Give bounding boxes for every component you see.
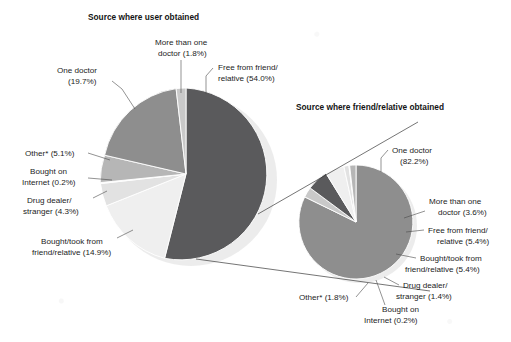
label-left-other: Other* (5.1%) (25, 149, 110, 160)
leader-left-one-doctor (112, 81, 135, 109)
label-right-free-from: Free from friend/ relative (5.4%) (406, 226, 489, 246)
left-chart-title: Source where user obtained (88, 12, 199, 22)
label-right-other: Other* (1.8%) (299, 283, 368, 302)
label-left-internet-line1: Bought on (30, 167, 67, 176)
label-right-other-line1: Other* (1.8%) (299, 293, 349, 302)
label-right-one-doctor-line2: (82.2%) (400, 157, 429, 166)
two-pie-chart-figure: Source where user obtained Source where … (0, 0, 511, 342)
leader-right-dealer (384, 277, 399, 285)
label-right-morethanone-line2: doctor (3.6%) (438, 208, 487, 217)
label-left-dealer-line2: stranger (4.3%) (23, 207, 79, 216)
label-right-internet-line2: Internet (0.2%) (364, 316, 418, 325)
label-left-more-than-one-doctor-line1: More than one (155, 38, 208, 47)
label-left-free-from-line2: relative (54.0%) (218, 74, 275, 83)
label-right-internet-line1: Bought on (382, 305, 419, 314)
label-right-freefrom-line2: relative (5.4%) (437, 237, 489, 246)
label-right-one-doctor-line1: One doctor (392, 146, 432, 155)
right-chart-title: Source where friend/relative obtained (296, 102, 444, 112)
pie-friend-slices (299, 165, 413, 279)
label-right-boughttook-line1: Bought/took from (420, 254, 482, 263)
leader-right-one-doctor (381, 150, 388, 172)
label-left-one-doctor-line2: (19.7%) (68, 77, 97, 86)
label-left-drug-dealer-stranger: Drug dealer/ stranger (4.3%) (23, 191, 107, 216)
label-left-dealer-line1: Drug dealer/ (27, 196, 72, 205)
label-right-one-doctor: One doctor (82.2%) (381, 146, 432, 172)
label-left-more-than-one-doctor-line2: doctor (1.8%) (158, 49, 207, 58)
label-right-more-than-one-doctor: More than one doctor (3.6%) (404, 197, 487, 218)
label-left-boughttook-line2: friend/relative (14.9%) (32, 248, 111, 257)
label-right-boughttook-line2: friend/relative (5.4%) (405, 265, 480, 274)
label-left-one-doctor-line1: One doctor (57, 66, 97, 75)
label-left-free-from-friend-relative: Free from friend/ relative (54.0%) (206, 63, 279, 94)
label-right-drug-dealer: Drug dealer/ stranger (1.4%) (384, 277, 452, 301)
label-left-more-than-one-doctor: More than one doctor (1.8%) (155, 38, 208, 93)
label-left-other-line1: Other* (5.1%) (25, 149, 75, 158)
label-left-bought-on-internet: Bought on Internet (0.2%) (22, 167, 112, 187)
label-right-morethanone-line1: More than one (429, 197, 482, 206)
leader-left-free-from (206, 68, 213, 94)
label-left-free-from-line1: Free from friend/ (218, 63, 279, 72)
leader-right-internet (376, 280, 385, 305)
label-left-boughttook-line1: Bought/took from (41, 237, 103, 246)
label-left-internet-line2: Internet (0.2%) (22, 178, 76, 187)
figure-canvas: Source where user obtained Source where … (0, 0, 511, 342)
label-right-freefrom-line1: Free from friend/ (428, 226, 489, 235)
label-right-dealer-line1: Drug dealer/ (403, 281, 448, 290)
leader-right-other (356, 283, 368, 297)
label-left-one-doctor: One doctor (19.7%) (57, 66, 135, 109)
label-right-bought-took: Bought/took from friend/relative (5.4%) (396, 254, 482, 274)
label-left-bought-took: Bought/took from friend/relative (14.9%) (32, 230, 133, 257)
label-right-dealer-line2: stranger (1.4%) (396, 292, 452, 301)
